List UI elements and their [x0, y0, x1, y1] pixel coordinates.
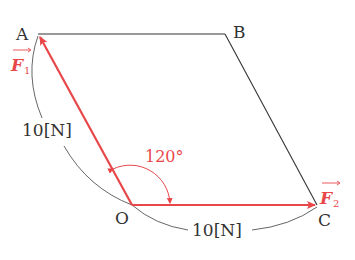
svg-text:1: 1: [24, 65, 30, 76]
length-label-OA: 10[N]: [22, 120, 72, 140]
dimension-arc-OC-left: [132, 205, 188, 230]
dimension-arc-OC-right: [252, 207, 317, 230]
point-label-C: C: [318, 210, 331, 230]
dimension-arc-OA-lower: [64, 146, 132, 205]
svg-text:F: F: [10, 55, 25, 75]
svg-text:2: 2: [333, 198, 339, 209]
point-label-A: A: [15, 24, 29, 44]
force-label-F2: F 2: [319, 181, 340, 209]
svg-text:F: F: [319, 188, 334, 208]
length-label-OC: 10[N]: [192, 220, 242, 240]
point-label-B: B: [233, 22, 246, 42]
edge-BC: [225, 34, 317, 205]
dimension-arc-OA: [32, 36, 42, 118]
force-label-F1: F 1: [10, 48, 31, 76]
angle-label: 120°: [145, 147, 184, 166]
point-label-O: O: [115, 208, 129, 228]
parallelogram-diagram: A B O C F 1 F 2 10[N] 10[N] 120°: [0, 0, 355, 260]
